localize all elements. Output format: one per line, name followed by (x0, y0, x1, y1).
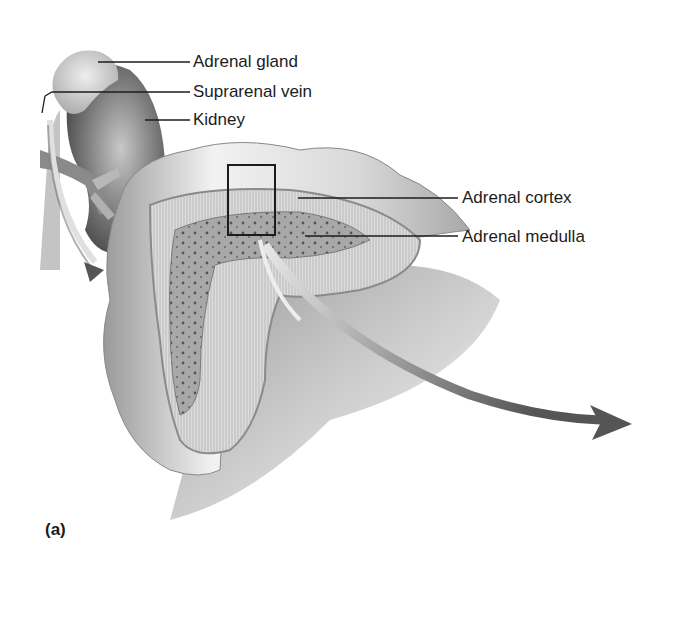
illustration (0, 0, 690, 624)
label-suprarenal-vein: Suprarenal vein (193, 83, 312, 100)
panel-label: (a) (45, 520, 66, 540)
label-adrenal-medulla: Adrenal medulla (462, 228, 585, 245)
label-adrenal-gland: Adrenal gland (193, 53, 298, 70)
adrenal-diagram: Adrenal gland Suprarenal vein Kidney Adr… (0, 0, 690, 624)
label-kidney: Kidney (193, 111, 245, 128)
label-adrenal-cortex: Adrenal cortex (462, 189, 572, 206)
